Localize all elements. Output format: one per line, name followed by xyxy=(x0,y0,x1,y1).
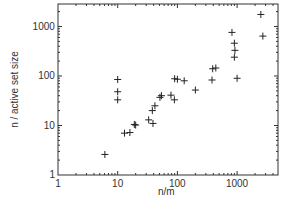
data-point xyxy=(228,29,235,36)
data-point xyxy=(209,77,216,84)
x-tick-label: 1000 xyxy=(226,179,248,189)
data-point xyxy=(114,88,121,95)
data-point xyxy=(209,65,216,72)
data-point xyxy=(131,121,138,128)
data-point xyxy=(257,11,264,18)
data-point xyxy=(145,116,152,123)
data-point xyxy=(126,129,133,136)
data-point xyxy=(114,96,121,103)
data-point xyxy=(231,40,238,47)
x-tick-label: 10 xyxy=(112,179,123,189)
x-tick-label: 1 xyxy=(55,179,61,189)
data-point xyxy=(212,65,219,72)
data-point xyxy=(149,120,156,127)
data-point xyxy=(181,77,188,84)
y-tick-label: 1000 xyxy=(33,22,55,32)
data-point xyxy=(158,92,165,99)
data-point xyxy=(234,75,241,82)
data-point xyxy=(156,94,163,101)
data-point xyxy=(231,54,238,61)
data-point xyxy=(192,87,199,94)
data-point xyxy=(101,151,108,158)
y-tick-label: 100 xyxy=(38,71,55,81)
y-tick-label: 1 xyxy=(49,170,55,180)
data-point xyxy=(167,92,174,99)
data-points xyxy=(101,11,266,158)
data-point xyxy=(114,76,121,83)
data-point xyxy=(259,33,266,40)
axis-ticks xyxy=(58,4,278,175)
data-point xyxy=(132,122,139,129)
data-point xyxy=(121,130,128,137)
data-point xyxy=(231,47,238,54)
x-axis-label: n/m xyxy=(158,186,175,197)
y-axis-label: n / active set size xyxy=(9,40,20,140)
plot-frame xyxy=(58,4,278,175)
y-tick-label: 10 xyxy=(44,121,55,131)
data-point xyxy=(171,96,178,103)
